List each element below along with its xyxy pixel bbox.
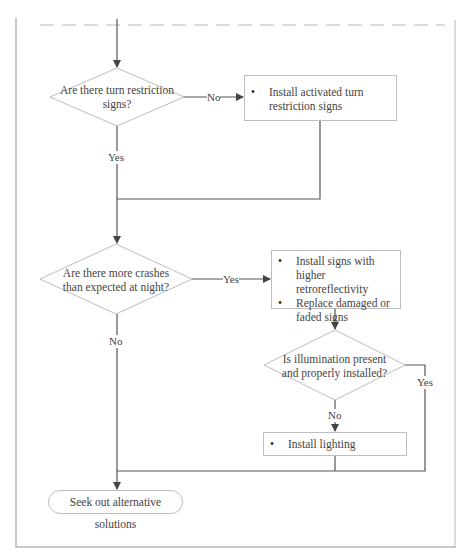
action-item: Install activated turn restriction signs <box>245 85 379 113</box>
action-turn-restriction-box: Install activated turn restriction signs <box>244 75 397 121</box>
decision-illumination-text: Is illumination present and properly ins… <box>264 352 405 380</box>
decision-night-crashes-text: Are there more crashes than expected at … <box>40 266 192 294</box>
edge-label-d1-no: No <box>207 91 220 104</box>
action-lighting-box: Install lighting <box>263 432 407 456</box>
edge-label-d1-yes: Yes <box>108 151 124 164</box>
action-retroreflectivity-box: Install signs with higher retroreflectiv… <box>271 250 401 309</box>
edge-label-d2-yes: Yes <box>223 273 239 286</box>
action-item: Replace damaged or faded signs <box>272 296 400 324</box>
action-item: Install signs with higher retroreflectiv… <box>272 254 400 296</box>
edge-label-d3-yes: Yes <box>417 376 433 389</box>
edge-label-d3-no: No <box>328 409 341 422</box>
action-item: Install lighting <box>264 437 406 451</box>
decision-turn-restriction-text: Are there turn restriction signs? <box>55 83 179 111</box>
terminal-alternative-solutions: Seek out alternative solutions <box>48 490 183 514</box>
edge-label-d2-no: No <box>109 335 122 348</box>
